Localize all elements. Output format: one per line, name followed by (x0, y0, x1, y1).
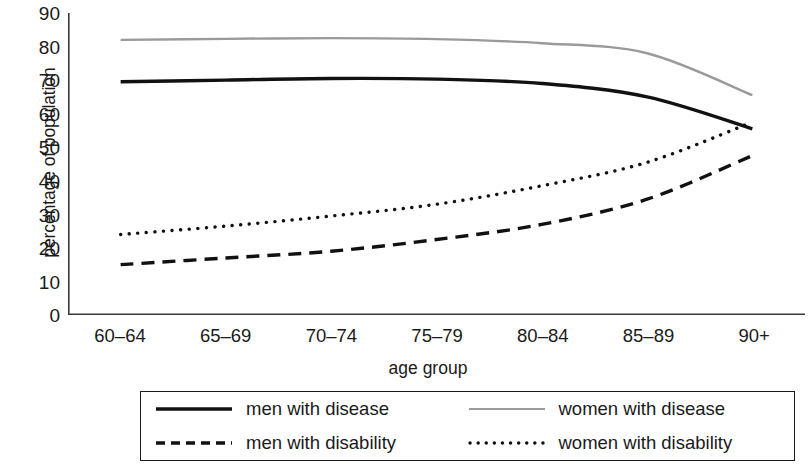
y-tick-label: 70 (26, 71, 60, 90)
y-tick-label: 40 (26, 172, 60, 191)
legend-label: men with disease (246, 400, 389, 419)
plot-area (68, 13, 805, 315)
legend-swatch-dotted-black (468, 436, 546, 450)
y-tick-label: 30 (26, 206, 60, 225)
legend-item-men-with-disease: men with disease (155, 400, 468, 419)
y-tick-label: 0 (26, 306, 60, 325)
legend-item-women-with-disease: women with disease (468, 400, 781, 419)
y-tick-label: 90 (26, 4, 60, 23)
chart-legend: men with disease women with disease men … (140, 391, 795, 461)
legend-label: women with disability (559, 434, 733, 453)
y-tick-label: 20 (26, 239, 60, 258)
chart-svg (68, 13, 805, 315)
series-line-1 (121, 38, 753, 95)
x-tick-label: 85–89 (596, 327, 702, 346)
legend-swatch-solid-gray (468, 402, 546, 416)
y-tick-label: 50 (26, 138, 60, 157)
legend-label: men with disability (246, 434, 396, 453)
x-tick-label: 80–84 (490, 327, 596, 346)
x-tick-label: 65–69 (173, 327, 279, 346)
x-axis-tick-labels: 60–64 65–69 70–74 75–79 80–84 85–89 90+ (68, 327, 808, 355)
series-line-2 (121, 156, 753, 265)
legend-item-men-with-disability: men with disability (155, 434, 468, 453)
y-tick-label: 60 (26, 105, 60, 124)
x-axis-title: age group (68, 358, 788, 379)
legend-swatch-solid-black (155, 402, 233, 416)
series-line-3 (121, 122, 753, 234)
y-tick-label: 10 (26, 273, 60, 292)
x-tick-label: 70–74 (278, 327, 384, 346)
x-tick-label: 60–64 (67, 327, 173, 346)
y-axis-tick-labels: 90 80 70 60 50 40 30 20 10 0 (0, 0, 60, 330)
x-tick-label: 90+ (701, 327, 807, 346)
chart-page: percentage of population 90 80 70 60 50 … (0, 0, 808, 464)
x-tick-label: 75–79 (384, 327, 490, 346)
y-tick-label: 80 (26, 38, 60, 57)
legend-label: women with disease (559, 400, 726, 419)
legend-item-women-with-disability: women with disability (468, 434, 781, 453)
series-line-0 (121, 78, 753, 128)
legend-swatch-dashed-black (155, 436, 233, 450)
